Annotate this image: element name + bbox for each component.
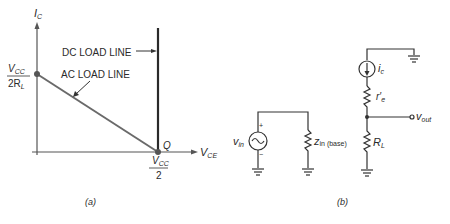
y-axis-arrow-icon <box>35 22 40 29</box>
collector-wire <box>367 49 414 60</box>
y-axis-label: IC <box>34 7 43 20</box>
ground-icon <box>302 169 314 175</box>
vout-label: vout <box>416 110 432 123</box>
ac-equivalent-circuit <box>249 49 420 176</box>
ac-load-line-label: AC LOAD LINE <box>61 69 130 80</box>
zin-resistor <box>305 130 311 168</box>
x-axis-label: VCE <box>200 146 217 159</box>
input-wire <box>258 112 308 132</box>
plus-sign: + <box>259 122 263 129</box>
re-resistor <box>364 86 370 117</box>
dc-load-line-label: DC LOAD LINE <box>62 47 132 58</box>
rl-label: RL <box>373 136 385 149</box>
caption-b: (b) <box>337 197 348 207</box>
x-axis-arrow-icon <box>191 150 198 155</box>
ground-icon <box>408 56 420 62</box>
q-point-label: Q <box>163 140 171 151</box>
rl-resistor <box>364 117 370 169</box>
dc-arrow-icon <box>151 49 157 53</box>
ic-label: ic <box>378 62 384 75</box>
ground-icon <box>361 170 373 176</box>
sine-wave-icon <box>252 139 264 144</box>
ground-icon <box>252 169 264 175</box>
re-label: r′e <box>376 91 385 103</box>
figure: IC VCE DC LOAD LINE AC LOAD LINE Q VCC 2… <box>0 0 450 224</box>
svg-text:2RL: 2RL <box>8 78 25 90</box>
vin-label: vin <box>233 135 244 148</box>
ac-load-line <box>37 74 158 152</box>
svg-text:VCC: VCC <box>152 155 170 167</box>
svg-text:2: 2 <box>156 170 162 181</box>
x-intercept-label: VCC 2 <box>149 155 170 181</box>
svg-text:VCC: VCC <box>8 63 26 75</box>
y-intercept-point <box>34 71 40 77</box>
circuit-labels: + − vin zin (base) ic r′e RL vout (b) <box>233 62 432 207</box>
zin-label: zin (base) <box>313 135 347 148</box>
load-line-graph: IC VCE DC LOAD LINE AC LOAD LINE Q VCC 2… <box>7 7 217 207</box>
vout-terminal[interactable] <box>410 115 414 119</box>
caption-a: (a) <box>85 197 96 207</box>
y-intercept-label: VCC 2RL <box>7 63 30 90</box>
ac-arrow-pointer <box>76 81 90 94</box>
minus-sign: − <box>259 151 263 158</box>
